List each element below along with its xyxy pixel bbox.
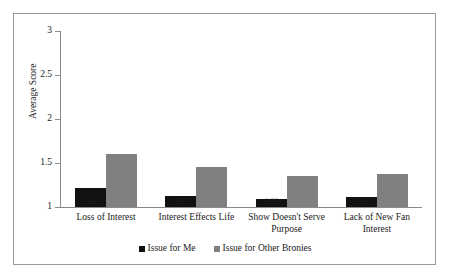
legend-label: Issue for Other Bronies	[223, 244, 312, 254]
bar-issue-for-other-bronies	[196, 167, 227, 207]
x-axis-category-label: Show Doesn't ServePurpose	[242, 212, 332, 235]
black-square-icon	[139, 246, 145, 252]
legend-label: Issue for Me	[148, 244, 196, 254]
bar-group: 1.13	[165, 31, 227, 207]
bar-issue-for-me: 1.13	[165, 196, 196, 207]
chart-legend: Issue for Me Issue for Other Bronies	[0, 244, 450, 254]
y-axis-tick-label: 1.5	[12, 158, 52, 168]
bar-value-label: 1.13	[165, 197, 196, 206]
bar-issue-for-other-bronies	[377, 174, 408, 207]
y-axis-tick-label: 2	[12, 114, 52, 124]
bar-issue-for-me: 1.11	[346, 197, 377, 207]
x-axis-category-label: Loss of Interest	[61, 212, 151, 224]
y-axis-tick-mark	[55, 163, 60, 164]
bars-layer: 1.221.131.091.11	[61, 31, 422, 207]
x-axis-category-label: Lack of New FanInterest	[332, 212, 422, 235]
y-axis-tick-label: 3	[12, 26, 52, 36]
bar-group: 1.09	[256, 31, 318, 207]
category-label-line: Loss of Interest	[61, 212, 151, 224]
bar-issue-for-other-bronies	[287, 176, 318, 207]
category-label-line: Interest	[332, 224, 422, 236]
bar-value-label: 1.11	[346, 197, 377, 206]
x-axis-category-label: Interest Effects Life	[151, 212, 241, 224]
y-axis-tick-mark	[55, 75, 60, 76]
legend-item-issue-for-other-bronies: Issue for Other Bronies	[214, 244, 312, 254]
y-axis-tick-label: 2.5	[12, 70, 52, 80]
bar-issue-for-me: 1.09	[256, 199, 287, 207]
y-axis-tick-mark	[55, 31, 60, 32]
x-axis-line	[60, 207, 422, 208]
category-label-line: Purpose	[242, 224, 332, 236]
category-label-line: Lack of New Fan	[332, 212, 422, 224]
category-label-line: Show Doesn't Serve	[242, 212, 332, 224]
y-axis-tick-mark	[55, 207, 60, 208]
bar-group: 1.22	[75, 31, 137, 207]
y-axis-tick-mark	[55, 119, 60, 120]
bar-chart-figure: Average Score 11.522.53 1.221.131.091.11…	[0, 0, 450, 279]
bar-value-label: 1.09	[256, 197, 287, 206]
bar-issue-for-me: 1.22	[75, 188, 106, 207]
gray-square-icon	[214, 246, 220, 252]
y-axis-tick-label: 1	[12, 202, 52, 212]
legend-item-issue-for-me: Issue for Me	[139, 244, 196, 254]
bar-value-label: 1.22	[75, 197, 106, 206]
category-label-line: Interest Effects Life	[151, 212, 241, 224]
bar-issue-for-other-bronies	[106, 154, 137, 207]
bar-group: 1.11	[346, 31, 408, 207]
